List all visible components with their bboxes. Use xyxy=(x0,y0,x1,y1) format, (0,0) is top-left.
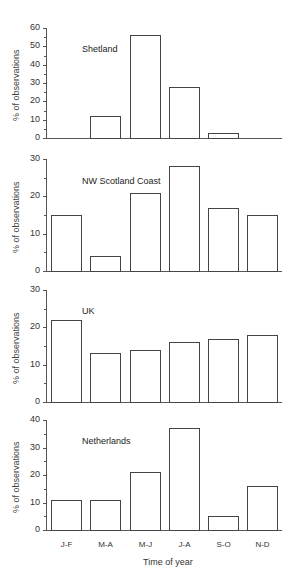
y-tick-label: 30 xyxy=(20,284,40,294)
y-tick-label: 20 xyxy=(20,469,40,479)
y-tick-label: 0 xyxy=(20,265,40,275)
y-tick-label: 40 xyxy=(20,59,40,69)
y-axis-title: % of observations xyxy=(11,181,21,253)
x-axis xyxy=(46,138,282,139)
y-tick xyxy=(43,120,46,121)
x-category-label: J-A xyxy=(169,540,200,549)
y-minor-tick xyxy=(44,489,46,490)
y-tick xyxy=(43,83,46,84)
y-tick xyxy=(43,327,46,328)
y-tick-label: 10 xyxy=(20,497,40,507)
y-tick-label: 60 xyxy=(20,22,40,32)
y-tick xyxy=(43,196,46,197)
y-tick xyxy=(43,530,46,531)
bar-S-O xyxy=(208,133,239,140)
y-minor-tick xyxy=(44,461,46,462)
bar-S-O xyxy=(208,516,239,531)
y-tick xyxy=(43,101,46,102)
y-minor-tick xyxy=(44,252,46,253)
y-tick xyxy=(43,159,46,160)
y-tick xyxy=(43,28,46,29)
y-tick xyxy=(43,420,46,421)
bar-M-A xyxy=(90,500,121,531)
y-tick-label: 40 xyxy=(20,414,40,424)
bar-N-D xyxy=(247,486,278,531)
y-tick-label: 20 xyxy=(20,95,40,105)
y-minor-tick xyxy=(44,346,46,347)
y-minor-tick xyxy=(44,129,46,130)
x-category-label: S-O xyxy=(208,540,239,549)
y-tick-label: 20 xyxy=(20,321,40,331)
y-axis-title: % of observations xyxy=(11,441,21,513)
bar-M-A xyxy=(90,256,121,272)
y-tick-label: 10 xyxy=(20,114,40,124)
y-axis xyxy=(46,28,47,139)
y-minor-tick xyxy=(44,74,46,75)
x-axis-title: Time of year xyxy=(143,557,193,567)
bar-J-F xyxy=(51,320,82,403)
panel-title: NW Scotland Coast xyxy=(82,176,161,186)
x-category-label: M-J xyxy=(130,540,161,549)
y-tick xyxy=(43,448,46,449)
bar-J-A xyxy=(169,87,200,139)
y-tick-label: 10 xyxy=(20,228,40,238)
bar-M-A xyxy=(90,116,121,139)
bar-J-A xyxy=(169,342,200,403)
bar-N-D xyxy=(247,215,278,272)
y-minor-tick xyxy=(44,92,46,93)
x-category-label: N-D xyxy=(247,540,278,549)
y-axis-title: % of observations xyxy=(11,49,21,121)
y-minor-tick xyxy=(44,37,46,38)
panel-title: Netherlands xyxy=(82,436,131,446)
y-tick-label: 0 xyxy=(20,132,40,142)
y-axis-title: % of observations xyxy=(11,312,21,384)
y-tick-label: 10 xyxy=(20,359,40,369)
y-tick xyxy=(43,365,46,366)
y-axis xyxy=(46,290,47,403)
y-tick-label: 30 xyxy=(20,77,40,87)
panel-title: Shetland xyxy=(82,44,118,54)
y-tick xyxy=(43,402,46,403)
bar-J-A xyxy=(169,428,200,531)
y-tick xyxy=(43,503,46,504)
y-axis xyxy=(46,420,47,531)
bar-J-A xyxy=(169,166,200,272)
y-minor-tick xyxy=(44,434,46,435)
y-tick-label: 20 xyxy=(20,190,40,200)
y-tick xyxy=(43,65,46,66)
y-tick-label: 50 xyxy=(20,40,40,50)
y-tick-label: 30 xyxy=(20,153,40,163)
bar-M-J xyxy=(130,472,161,531)
bar-M-A xyxy=(90,353,121,403)
y-tick xyxy=(43,290,46,291)
y-minor-tick xyxy=(44,56,46,57)
y-axis xyxy=(46,159,47,272)
y-tick-label: 0 xyxy=(20,396,40,406)
bar-M-J xyxy=(130,350,161,403)
bar-J-F xyxy=(51,215,82,272)
y-tick xyxy=(43,234,46,235)
bar-S-O xyxy=(208,339,239,403)
y-tick xyxy=(43,138,46,139)
y-tick-label: 30 xyxy=(20,442,40,452)
bar-M-J xyxy=(130,193,161,272)
y-tick-label: 0 xyxy=(20,524,40,534)
x-category-label: M-A xyxy=(90,540,121,549)
bar-J-F xyxy=(51,500,82,531)
y-tick xyxy=(43,475,46,476)
y-minor-tick xyxy=(44,516,46,517)
y-minor-tick xyxy=(44,178,46,179)
y-tick xyxy=(43,46,46,47)
y-minor-tick xyxy=(44,309,46,310)
panel-title: UK xyxy=(82,306,95,316)
y-minor-tick xyxy=(44,215,46,216)
bar-M-J xyxy=(130,35,161,139)
bar-N-D xyxy=(247,335,278,403)
bar-S-O xyxy=(208,208,239,272)
y-tick xyxy=(43,271,46,272)
y-minor-tick xyxy=(44,383,46,384)
x-category-label: J-F xyxy=(51,540,82,549)
y-minor-tick xyxy=(44,111,46,112)
